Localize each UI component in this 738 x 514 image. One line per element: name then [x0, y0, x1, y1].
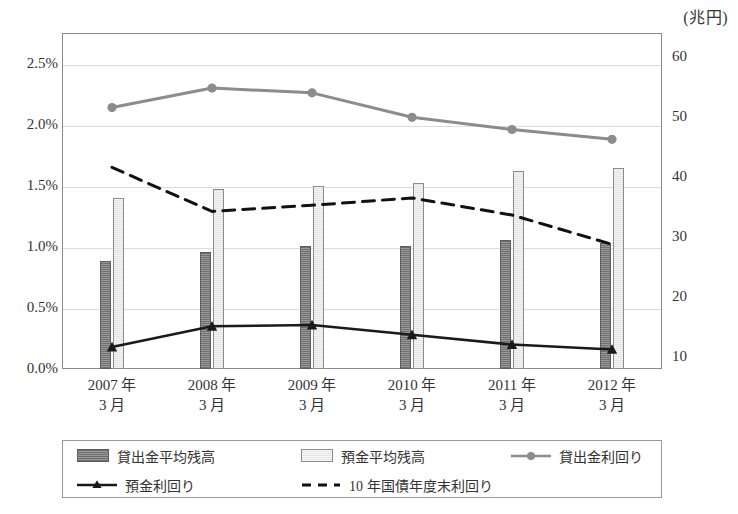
gridline [63, 126, 661, 127]
x-axis-tick-label: 2008 年3 月 [157, 375, 267, 416]
deposit-balance-swatch-icon [301, 449, 333, 462]
legend-label-loan-yield: 貸出金利回り [559, 446, 643, 466]
x-axis-tick-label: 2007 年3 月 [57, 375, 167, 416]
chart-container: (兆円) 2.5%2.0%1.5%1.0%0.5%0.0% 6050403020… [0, 0, 738, 514]
legend-item-loan-balance: 貸出金平均残高 [77, 441, 215, 470]
legend-label-deposit-yield: 預金利回り [125, 475, 195, 495]
y-axis-right-tick-label: 10 [672, 349, 732, 364]
x-tick-month: 3 月 [57, 395, 167, 415]
x-axis: 2007 年3 月2008 年3 月2009 年3 月2010 年3 月2011… [62, 375, 662, 427]
y-axis-left-tick-label: 1.0% [2, 239, 58, 254]
legend-item-deposit-yield: 預金利回り [77, 470, 195, 499]
y-axis-left-tick-label: 2.5% [2, 56, 58, 71]
y-axis-right-tick-label: 30 [672, 229, 732, 244]
y-axis-left-tick-label: 0.0% [2, 361, 58, 376]
x-axis-tick-label: 2009 年3 月 [257, 375, 367, 416]
legend-item-loan-yield: 貸出金利回り [511, 441, 643, 470]
legend-label-jgb-yield: 10 年国債年度末利回り [349, 475, 493, 495]
x-tick-month: 3 月 [257, 395, 367, 415]
y-axis-left-tick-label: 0.5% [2, 300, 58, 315]
x-axis-tick-label: 2012 年3 月 [557, 375, 667, 416]
y-axis-right-tick-label: 20 [672, 289, 732, 304]
legend-item-deposit-balance: 預金平均残高 [301, 441, 425, 470]
x-axis-tick-label: 2010 年3 月 [357, 375, 467, 416]
x-tick-month: 3 月 [557, 395, 667, 415]
jgb-dashed-line-icon [301, 478, 341, 492]
x-tick-year: 2009 年 [288, 377, 337, 393]
plot-area [62, 33, 662, 369]
x-axis-tick-label: 2011 年3 月 [457, 375, 567, 416]
x-tick-month: 3 月 [157, 395, 267, 415]
gridline [63, 248, 661, 249]
loan-balance-swatch-icon [77, 449, 109, 462]
legend-label-deposit-balance: 預金平均残高 [341, 446, 425, 466]
legend-item-jgb-yield: 10 年国債年度末利回り [301, 470, 493, 499]
y-axis-right-tick-label: 40 [672, 169, 732, 184]
legend-row-2: 預金利回り 10 年国債年度末利回り [63, 470, 661, 499]
y-axis-right-tick-label: 60 [672, 49, 732, 64]
x-tick-year: 2007 年 [88, 377, 137, 393]
y-axis-left-tick-label: 1.5% [2, 178, 58, 193]
loan-yield-line-circle-icon [511, 449, 551, 463]
y-axis-left: 2.5%2.0%1.5%1.0%0.5%0.0% [0, 0, 58, 514]
x-tick-year: 2008 年 [188, 377, 237, 393]
y-axis-left-tick-label: 2.0% [2, 117, 58, 132]
deposit-yield-line-triangle-icon [77, 478, 117, 492]
x-tick-year: 2010 年 [388, 377, 437, 393]
legend-label-loan-balance: 貸出金平均残高 [117, 446, 215, 466]
x-tick-year: 2012 年 [588, 377, 637, 393]
gridline [63, 309, 661, 310]
x-tick-month: 3 月 [357, 395, 467, 415]
y-axis-right-tick-label: 50 [672, 109, 732, 124]
chart-legend: 貸出金平均残高 預金平均残高 貸出金利回り [62, 440, 662, 498]
x-tick-month: 3 月 [457, 395, 567, 415]
gridline [63, 65, 661, 66]
gridline [63, 187, 661, 188]
x-tick-year: 2011 年 [488, 377, 536, 393]
y-axis-right: 605040302010 [672, 0, 736, 514]
legend-row-1: 貸出金平均残高 預金平均残高 貸出金利回り [63, 441, 661, 470]
